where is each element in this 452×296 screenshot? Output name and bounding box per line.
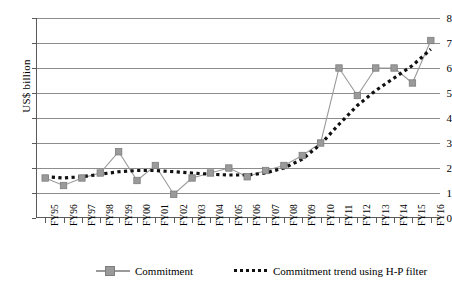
data-point-marker	[317, 140, 323, 146]
data-point-marker	[115, 149, 121, 155]
data-point-marker	[171, 191, 177, 197]
legend-label-trend: Commitment trend using H-P filter	[273, 262, 427, 280]
y-tick-mark	[32, 218, 36, 219]
chart-container: US$ billion 012345678 FY95FY96FY97FY98FY…	[0, 0, 452, 296]
x-tick-mark	[302, 218, 303, 223]
x-tick-mark	[284, 218, 285, 223]
chart-legend: Commitment Commitment trend using H-P fi…	[96, 262, 436, 282]
legend-swatch-trend	[234, 266, 268, 276]
data-point-marker	[262, 167, 268, 173]
x-tick-mark	[45, 218, 46, 223]
x-tick-mark	[394, 218, 395, 223]
x-tick-mark	[357, 218, 358, 223]
data-point-marker	[409, 80, 415, 86]
data-point-marker	[152, 162, 158, 168]
data-point-marker	[281, 162, 287, 168]
data-point-marker	[336, 65, 342, 71]
x-tick-mark	[321, 218, 322, 223]
data-point-marker	[244, 174, 250, 180]
y-axis-title: US$ billion	[20, 36, 36, 136]
data-point-marker	[97, 170, 103, 176]
x-tick-mark	[100, 218, 101, 223]
x-tick-mark	[82, 218, 83, 223]
legend-item-trend[interactable]: Commitment trend using H-P filter	[234, 262, 427, 280]
data-point-marker	[79, 175, 85, 181]
data-point-marker	[42, 175, 48, 181]
x-tick-mark	[210, 218, 211, 223]
x-tick-mark	[64, 218, 65, 223]
data-point-marker	[354, 92, 360, 98]
x-tick-mark	[192, 218, 193, 223]
data-point-marker	[391, 65, 397, 71]
data-point-marker	[428, 37, 434, 43]
x-tick-mark	[266, 218, 267, 223]
data-point-marker	[134, 177, 140, 183]
data-point-marker	[189, 175, 195, 181]
series-layer	[36, 18, 440, 218]
x-tick-mark	[376, 218, 377, 223]
data-point-marker	[207, 170, 213, 176]
x-tick-mark	[247, 218, 248, 223]
data-point-marker	[226, 165, 232, 171]
x-tick-mark	[119, 218, 120, 223]
x-tick-mark	[339, 218, 340, 223]
legend-label-commitment: Commitment	[135, 262, 193, 280]
x-tick-mark	[229, 218, 230, 223]
x-tick-mark	[431, 218, 432, 223]
data-point-marker	[60, 182, 66, 188]
legend-item-commitment[interactable]: Commitment	[96, 262, 193, 280]
x-tick-mark	[137, 218, 138, 223]
data-point-marker	[373, 65, 379, 71]
x-tick-mark	[412, 218, 413, 223]
legend-swatch-commitment	[96, 266, 130, 276]
x-tick-mark	[155, 218, 156, 223]
x-tick-mark	[174, 218, 175, 223]
data-point-marker	[299, 152, 305, 158]
